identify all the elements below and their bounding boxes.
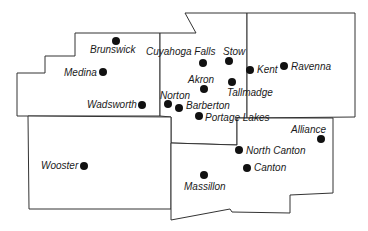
city-label: Stow <box>223 46 246 57</box>
city-label: Massillon <box>184 181 226 192</box>
city-marker-icon <box>280 62 288 70</box>
city-marker-icon <box>225 57 233 65</box>
county-map: BrunswickMedinaWadsworthCuyahoga FallsSt… <box>0 0 368 231</box>
city-label: Tallmadge <box>227 87 273 98</box>
city-marker-icon <box>195 112 203 120</box>
city-label: Ravenna <box>291 61 331 72</box>
city-marker-icon <box>246 66 254 74</box>
city-marker-icon <box>243 164 251 172</box>
city-label: Wadsworth <box>87 99 137 110</box>
city-portage-lakes: Portage Lakes <box>195 112 270 123</box>
city-marker-icon <box>164 100 172 108</box>
city-marker-icon <box>228 78 236 86</box>
city-marker-icon <box>200 171 208 179</box>
city-marker-icon <box>80 162 88 170</box>
city-label: Wooster <box>41 160 79 171</box>
city-label: Akron <box>187 74 215 85</box>
city-marker-icon <box>99 68 107 76</box>
city-marker-icon <box>199 59 207 67</box>
city-label: Canton <box>254 162 287 173</box>
city-label: Barberton <box>186 100 230 111</box>
city-label: North Canton <box>246 145 306 156</box>
city-label: Cuyahoga Falls <box>146 46 215 57</box>
city-label: Portage Lakes <box>205 112 270 123</box>
city-marker-icon <box>317 135 325 143</box>
city-marker-icon <box>138 101 146 109</box>
city-marker-icon <box>200 85 208 93</box>
city-label: Alliance <box>290 124 326 135</box>
city-marker-icon <box>235 146 243 154</box>
city-label: Medina <box>64 67 97 78</box>
city-label: Brunswick <box>90 44 137 55</box>
city-north-canton: North Canton <box>235 145 306 156</box>
city-label: Kent <box>257 64 279 75</box>
city-marker-icon <box>175 104 183 112</box>
